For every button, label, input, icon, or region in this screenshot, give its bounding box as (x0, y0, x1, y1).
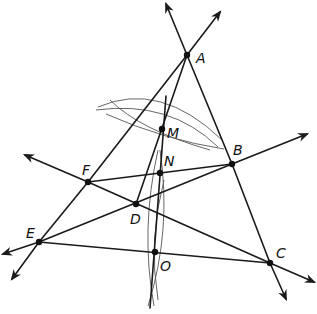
ray-B-right (232, 134, 307, 164)
point-A: A (184, 50, 206, 66)
point-label: A (195, 50, 206, 66)
ray-E-left (3, 242, 39, 254)
points: ABCDEFMNO (26, 50, 286, 274)
point-label: D (130, 211, 141, 227)
point-E: E (26, 225, 42, 245)
point-label: O (160, 258, 171, 274)
segment-A-B (187, 55, 232, 164)
point-B: B (229, 142, 243, 167)
point-F: F (82, 162, 91, 185)
point-C: C (267, 245, 286, 266)
point-label: M (167, 125, 179, 141)
point-label: F (82, 162, 91, 178)
point-dot-icon (184, 52, 190, 58)
point-dot-icon (152, 249, 158, 255)
point-label: C (276, 245, 286, 261)
point-dot-icon (157, 170, 163, 176)
arc-upper-3 (110, 100, 210, 150)
segment-F-E (39, 182, 88, 242)
point-dot-icon (159, 126, 165, 132)
ray-E-down (12, 242, 39, 279)
point-dot-icon (267, 260, 273, 266)
point-label: N (164, 153, 175, 169)
point-dot-icon (85, 179, 91, 185)
point-label: B (233, 142, 243, 158)
ray-A-up-right (187, 12, 220, 55)
point-dot-icon (133, 201, 139, 207)
point-dot-icon (229, 161, 235, 167)
point-label: E (26, 225, 35, 241)
diagram-canvas: ABCDEFMNO (0, 0, 317, 314)
point-dot-icon (36, 239, 42, 245)
ray-F-left (25, 155, 88, 182)
ray-A-up-left (166, 4, 187, 55)
segment-F-C (88, 182, 270, 263)
geometric-construction-diagram: ABCDEFMNO (0, 0, 317, 314)
